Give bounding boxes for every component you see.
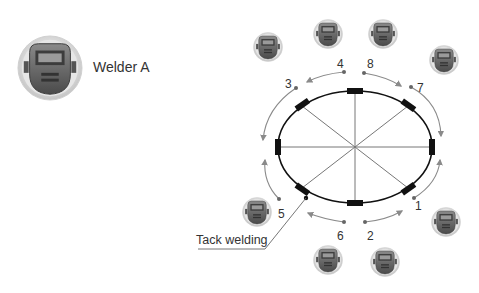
welder-a-label: Welder A <box>93 60 150 74</box>
sequence-label-1: 1 <box>415 200 422 212</box>
sequence-label-7: 7 <box>417 82 424 94</box>
tack-welding-label: Tack welding <box>196 234 268 247</box>
welding-helmet-icon <box>429 45 458 74</box>
welding-helmet-icon <box>313 245 342 274</box>
sequence-label-8: 8 <box>367 58 374 70</box>
sequence-label-6: 6 <box>337 230 344 242</box>
welding-helmet-icon <box>368 19 397 48</box>
sequence-label-4: 4 <box>337 58 344 70</box>
welding-helmet-icon <box>370 247 399 276</box>
welding-helmet-icon <box>431 207 460 236</box>
welding-helmet-icon <box>313 19 342 48</box>
welder-a-legend-icon <box>18 36 82 100</box>
sequence-label-3: 3 <box>285 78 292 90</box>
weld-sequence-diagram <box>0 0 479 293</box>
welding-helmet-icon <box>242 197 271 226</box>
sequence-label-2: 2 <box>367 230 374 242</box>
sequence-label-5: 5 <box>278 208 285 220</box>
welding-helmet-icon <box>253 32 282 61</box>
